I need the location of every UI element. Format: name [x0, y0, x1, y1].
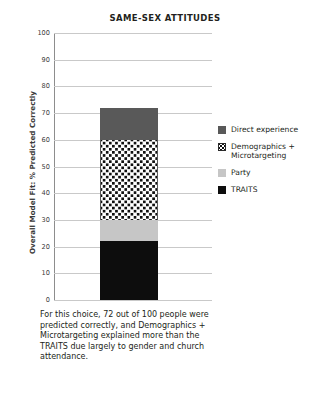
gridline-0: 0 [54, 300, 212, 301]
legend-swatch-icon [218, 186, 226, 194]
gridline-100: 100 [54, 33, 212, 34]
y-tick-label-0: 0 [46, 296, 50, 304]
legend-swatch-icon [218, 143, 226, 151]
y-tick-label-10: 10 [42, 269, 50, 277]
bar-segment-direct-experience[interactable] [100, 108, 158, 140]
bar-segment-demographics-microtargeting[interactable] [100, 140, 158, 220]
y-tick-label-50: 50 [42, 163, 50, 171]
y-tick-label-100: 100 [37, 29, 50, 37]
chart-title: SAME-SEX ATTITUDES [0, 13, 330, 23]
legend-swatch-icon [218, 169, 226, 177]
legend-label: Direct experience [231, 125, 298, 134]
y-tick-label-40: 40 [42, 189, 50, 197]
y-tick-label-70: 70 [42, 109, 50, 117]
legend-item-traits[interactable]: TRAITS [218, 185, 328, 194]
y-tick-label-60: 60 [42, 136, 50, 144]
y-tick-label-20: 20 [42, 243, 50, 251]
y-axis-title: Overall Model Fit: % Predicted Correctly [28, 78, 37, 268]
chart-caption: For this choice, 72 out of 100 people we… [40, 310, 220, 363]
gridline-80: 80 [54, 86, 212, 87]
y-tick-label-30: 30 [42, 216, 50, 224]
y-tick-label-90: 90 [42, 56, 50, 64]
y-tick-label-80: 80 [42, 82, 50, 90]
plot-area: 100 90 80 70 60 50 40 30 20 10 0 [54, 33, 212, 300]
bar-segment-party[interactable] [100, 220, 158, 241]
legend-item-demographics-microtargeting[interactable]: Demographics + Microtargeting [218, 142, 328, 161]
legend-swatch-icon [218, 126, 226, 134]
legend-label: Demographics + Microtargeting [231, 142, 328, 161]
gridline-90: 90 [54, 60, 212, 61]
legend-label: Party [231, 168, 251, 177]
bar-segment-traits[interactable] [100, 241, 158, 300]
chart-legend: Direct experience Demographics + Microta… [218, 125, 328, 202]
legend-item-direct-experience[interactable]: Direct experience [218, 125, 328, 134]
legend-item-party[interactable]: Party [218, 168, 328, 177]
chart-figure: SAME-SEX ATTITUDES Overall Model Fit: % … [0, 0, 330, 410]
legend-label: TRAITS [231, 185, 258, 194]
